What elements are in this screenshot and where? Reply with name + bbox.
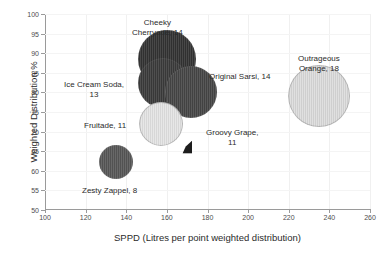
y-tick-label: 55 (31, 187, 39, 194)
y-tick (41, 34, 45, 35)
y-tick-label: 75 (31, 109, 39, 116)
y-tick-label: 60 (31, 167, 39, 174)
y-tick-label: 95 (31, 30, 39, 37)
y-tick (41, 92, 45, 93)
x-tick (289, 209, 290, 213)
y-tick (41, 210, 45, 211)
data-label-ice-cream-soda: Ice Cream Soda, 13 (64, 80, 124, 100)
y-tick (41, 132, 45, 133)
x-tick (45, 209, 46, 213)
x-tick-label: 220 (283, 214, 295, 221)
bubble-fruitade (139, 102, 183, 146)
bubble-groovy-grape (182, 141, 192, 154)
x-tick-label: 180 (202, 214, 214, 221)
data-label-groovy-grape: Groovy Grape, 11 (206, 128, 258, 148)
x-tick (86, 209, 87, 213)
y-tick-label: 65 (31, 148, 39, 155)
plot-area: 1001201401601802002202402605055606570758… (45, 14, 370, 210)
data-label-original-sarsi: Original Sarsi, 14 (209, 72, 270, 82)
y-tick (41, 171, 45, 172)
x-tick (167, 209, 168, 213)
data-label-outrageous-orange: Outrageous Orange, 18 (298, 54, 340, 74)
x-tick-label: 160 (161, 214, 173, 221)
x-tick-label: 100 (39, 214, 51, 221)
gridline-vertical (370, 14, 371, 209)
x-tick-label: 200 (242, 214, 254, 221)
bubble-chart: Weighted Distribution % 1001201401601802… (0, 0, 391, 256)
y-tick (41, 112, 45, 113)
x-axis-title: SPPD (Litres per point weighted distribu… (45, 232, 370, 243)
gridline-horizontal (45, 14, 370, 15)
y-tick-label: 100 (27, 11, 39, 18)
data-label-fruitade: Fruitade, 11 (84, 121, 126, 131)
gridline-horizontal (45, 171, 370, 172)
y-tick-label: 80 (31, 89, 39, 96)
x-tick (370, 209, 371, 213)
x-tick-label: 240 (324, 214, 336, 221)
bubble-outrageous-orange (288, 65, 350, 127)
y-tick (41, 14, 45, 15)
x-tick-label: 140 (120, 214, 132, 221)
x-tick (248, 209, 249, 213)
y-tick (41, 53, 45, 54)
gridline-horizontal (45, 34, 370, 35)
x-tick (208, 209, 209, 213)
gridline-horizontal (45, 151, 370, 152)
bubble-zesty-zappel (99, 145, 133, 179)
y-tick-label: 50 (31, 207, 39, 214)
y-tick (41, 190, 45, 191)
x-tick-label: 260 (364, 214, 376, 221)
y-axis-title-container: Weighted Distribution % (10, 14, 24, 210)
data-label-cheeky-cherryade: Cheeky Cherryade, 14 (132, 18, 183, 38)
y-tick-label: 70 (31, 128, 39, 135)
x-tick (329, 209, 330, 213)
x-tick (126, 209, 127, 213)
x-tick-label: 120 (80, 214, 92, 221)
data-label-zesty-zappel: Zesty Zappel, 8 (82, 186, 137, 196)
y-tick-label: 85 (31, 69, 39, 76)
y-tick (41, 151, 45, 152)
y-tick (41, 73, 45, 74)
y-tick-label: 90 (31, 50, 39, 57)
